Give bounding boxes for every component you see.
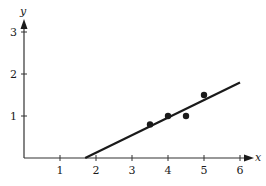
y-tick-label: 1 [10,110,17,123]
y-tick-label: 3 [10,26,17,39]
x-tick-label: 5 [201,164,208,177]
y-tick-label: 2 [10,68,17,81]
scatter-plot: x y 123456 123 [0,0,266,186]
data-point [165,113,171,119]
data-point [201,92,207,98]
x-tick-label: 3 [129,164,136,177]
fitted-line [85,82,240,158]
x-tick-label: 1 [57,164,64,177]
y-axis-arrow-icon [21,19,28,29]
x-tick-label: 4 [165,164,172,177]
y-axis-label: y [19,5,27,18]
x-axis-label: x [255,151,262,164]
axes: x y [19,5,262,164]
x-tick-label: 6 [237,164,244,177]
data-point [183,113,189,119]
data-point [147,121,153,127]
x-tick-label: 2 [93,164,100,177]
x-axis-arrow-icon [244,155,254,162]
series-layer [85,82,240,158]
